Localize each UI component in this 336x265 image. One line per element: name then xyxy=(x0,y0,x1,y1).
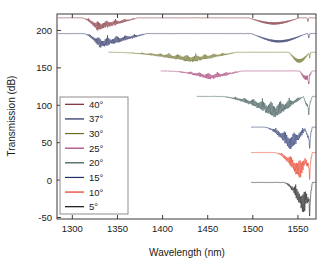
y-tick-label: 100 xyxy=(36,100,52,111)
chart-figure: 130013501400145015001550 -50050100150200… xyxy=(0,0,336,265)
x-tick-label: 1400 xyxy=(152,223,173,234)
legend-label-30deg: 30° xyxy=(89,128,104,139)
y-tick-label: 150 xyxy=(36,62,52,73)
y-axis-title: Transmission (dB) xyxy=(6,76,17,157)
x-tick-label: 1300 xyxy=(62,223,83,234)
y-tick-label: 50 xyxy=(41,137,52,148)
x-tick-label: 1550 xyxy=(287,223,308,234)
x-axis-title: Wavelength (nm) xyxy=(149,247,225,258)
x-tick-label: 1450 xyxy=(197,223,218,234)
legend-label-25deg: 25° xyxy=(89,143,104,154)
legend-label-40deg: 40° xyxy=(89,99,104,110)
x-tick-label: 1350 xyxy=(107,223,128,234)
y-tick-label: -50 xyxy=(38,212,52,223)
legend-label-20deg: 20° xyxy=(89,157,104,168)
legend-label-37deg: 37° xyxy=(89,113,104,124)
legend-label-15deg: 15° xyxy=(89,172,104,183)
transmission-spectrum-chart: 130013501400145015001550 -50050100150200… xyxy=(0,0,336,265)
x-tick-label: 1500 xyxy=(242,223,263,234)
y-tick-label: 0 xyxy=(47,175,52,186)
legend-label-5deg: 5° xyxy=(89,201,98,212)
legend: 40°37°30°25°20°15°10°5° xyxy=(60,97,128,214)
legend-label-10deg: 10° xyxy=(89,187,104,198)
y-tick-label: 200 xyxy=(36,25,52,36)
